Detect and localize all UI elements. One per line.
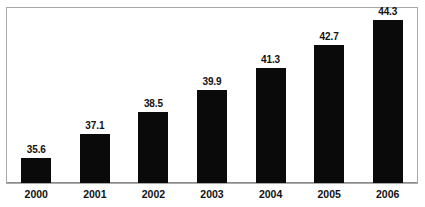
bar-chart: 35.6 37.1 38.5 39.9 41.3 42.7 44.3	[0, 0, 425, 207]
x-tick-label-2000: 2000	[25, 188, 48, 201]
x-tick-label-2005: 2005	[317, 188, 340, 201]
bar[interactable]	[80, 134, 110, 183]
bar-slot: 35.6	[7, 8, 66, 183]
x-tick-label-2003: 2003	[200, 188, 223, 201]
bar-slot: 44.3	[358, 8, 417, 183]
bar-slot: 39.9	[183, 8, 242, 183]
bar-slot: 42.7	[300, 8, 359, 183]
bar-value-label: 44.3	[378, 6, 397, 17]
bar[interactable]	[138, 112, 168, 183]
bar-slot: 38.5	[124, 8, 183, 183]
x-tick-label-2001: 2001	[83, 188, 106, 201]
x-axis-labels: 2000 2001 2002 2003 2004 2005 2006	[7, 188, 417, 204]
bar-value-label: 38.5	[144, 98, 163, 109]
bar-value-label: 39.9	[202, 76, 221, 87]
x-tick-label-2002: 2002	[142, 188, 165, 201]
bar[interactable]	[373, 20, 403, 183]
bar[interactable]	[197, 90, 227, 183]
x-tick-label-2006: 2006	[376, 188, 399, 201]
bar[interactable]	[256, 68, 286, 183]
bar-value-label: 41.3	[261, 54, 280, 65]
plot-area: 35.6 37.1 38.5 39.9 41.3 42.7 44.3	[7, 8, 417, 183]
bar-value-label: 42.7	[320, 31, 339, 42]
bar-slot: 37.1	[66, 8, 125, 183]
bar-value-label: 37.1	[85, 120, 104, 131]
bar-slot: 41.3	[241, 8, 300, 183]
bar[interactable]	[314, 45, 344, 183]
x-tick-label-2004: 2004	[259, 188, 282, 201]
bar-value-label: 35.6	[27, 144, 46, 155]
bar[interactable]	[21, 158, 51, 183]
